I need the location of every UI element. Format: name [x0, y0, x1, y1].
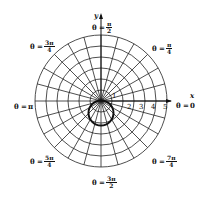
radial-tick-3: 3	[139, 103, 143, 111]
radial-tick-1: 1	[112, 92, 116, 100]
angle-label-3pi-over-4: θ = 3π4	[30, 40, 55, 53]
angle-label-0: θ = 0	[176, 102, 195, 109]
radial-tick-2: 2	[127, 103, 131, 111]
angle-label-pi: θ = π	[14, 103, 33, 110]
radial-tick-5: 5	[163, 103, 167, 111]
y-axis-label: y	[94, 11, 98, 20]
angle-label-5pi-over-4: θ = 5π4	[30, 155, 55, 168]
angle-label-pi-over-4: θ = π4	[152, 42, 172, 55]
x-axis-label: x	[190, 91, 194, 100]
y-axis-arrow-icon	[99, 13, 103, 19]
angle-label-3pi-over-2: θ = 3π2	[92, 176, 117, 189]
angle-label-7pi-over-4: θ = 7π4	[152, 155, 177, 168]
angle-label-pi-over-2: θ = π2	[92, 21, 112, 34]
radial-tick-4: 4	[151, 103, 155, 111]
